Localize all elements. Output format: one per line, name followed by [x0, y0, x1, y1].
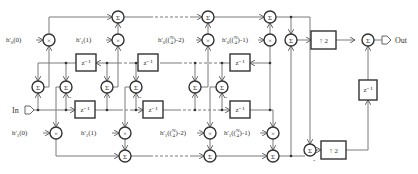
coef-h1-0: h'1(0)	[12, 130, 27, 138]
multiplier-node: ×	[264, 34, 276, 46]
svg-text:z⁻¹: z⁻¹	[81, 59, 90, 67]
svg-text:×: ×	[268, 37, 272, 45]
svg-text:Σ: Σ	[105, 84, 109, 92]
sum-node: Σ	[204, 150, 216, 162]
svg-text:×: ×	[123, 130, 127, 138]
sum-node: Σ	[285, 34, 297, 46]
svg-text:Σ: Σ	[289, 37, 293, 45]
svg-text:z⁻¹: z⁻¹	[235, 59, 244, 67]
svg-text:z⁻¹: z⁻¹	[148, 106, 157, 114]
svg-text:↑ 2: ↑ 2	[329, 147, 338, 155]
upsampler-bottom: ↑ 2	[321, 141, 346, 159]
coef-h0-1: h'1(1)	[76, 37, 91, 45]
delay-block: z⁻¹	[75, 101, 95, 118]
svg-text:Out: Out	[395, 36, 408, 45]
coef-h0-n4-minus-1: h'0((N4)-1)	[222, 35, 248, 45]
sum-node: Σ	[101, 81, 113, 93]
svg-text:-: -	[313, 156, 316, 164]
svg-text:-: -	[225, 93, 228, 101]
output-sum-node: Σ	[362, 34, 374, 46]
block-diagram: Σ Σ Σ Σ Σ Σ Σ Σ Σ Σ Σ Σ Σ Σ Σ × × × × × …	[0, 0, 418, 174]
multiplier-node: ×	[202, 34, 214, 46]
multiplier-node: ×	[119, 127, 131, 139]
svg-text:Σ: Σ	[220, 84, 224, 92]
delay-block: z⁻¹	[76, 54, 96, 71]
svg-text:Σ: Σ	[123, 153, 127, 161]
multiplier-node: ×	[43, 34, 55, 46]
delay-block: z⁻¹	[138, 54, 158, 71]
svg-text:Σ: Σ	[64, 84, 68, 92]
sum-node: Σ	[216, 81, 228, 93]
svg-text:z⁻¹: z⁻¹	[143, 59, 152, 67]
sum-node: Σ	[202, 11, 214, 23]
delay-block: z⁻¹	[230, 54, 250, 71]
svg-text:z⁻¹: z⁻¹	[80, 106, 89, 114]
svg-text:Σ: Σ	[206, 14, 210, 22]
sum-node: Σ	[189, 81, 201, 93]
svg-text:×: ×	[54, 130, 58, 138]
delay-block: z⁻¹	[143, 101, 163, 118]
svg-text:Σ: Σ	[36, 84, 40, 92]
svg-text:×: ×	[47, 37, 51, 45]
coef-h1-1: h'1(1)	[81, 130, 96, 138]
svg-text:×: ×	[116, 37, 120, 45]
sum-node: Σ	[112, 11, 124, 23]
svg-text:In: In	[12, 106, 19, 115]
multiplier-node: ×	[204, 127, 216, 139]
svg-text:×: ×	[208, 130, 212, 138]
coef-h1-n4-minus-2: h'1((N4)-2)	[160, 128, 186, 138]
svg-text:Σ: Σ	[366, 37, 370, 45]
svg-text:×: ×	[271, 130, 275, 138]
output-delay-block: z⁻¹	[359, 80, 377, 100]
multiplier-node: ×	[112, 34, 124, 46]
svg-text:Σ: Σ	[134, 84, 138, 92]
svg-text:Σ: Σ	[308, 147, 312, 155]
svg-text:z⁻¹: z⁻¹	[235, 106, 244, 114]
sum-node: Σ	[267, 150, 279, 162]
sum-node: Σ	[264, 11, 276, 23]
coef-h0-n4-minus-2: h'0((N4)-2)	[158, 35, 184, 45]
sum-node: Σ	[130, 81, 142, 93]
upsampler-top: ↑ 2	[311, 31, 336, 49]
svg-text:↑ 2: ↑ 2	[319, 37, 328, 45]
svg-text:Σ: Σ	[271, 153, 275, 161]
svg-text:-: -	[139, 93, 142, 101]
svg-text:z⁻¹: z⁻¹	[363, 86, 372, 94]
multiplier-node: ×	[267, 127, 279, 139]
delay-block: z⁻¹	[230, 101, 250, 118]
svg-text:-: -	[69, 93, 72, 101]
multiplier-nodes: × × × × × × × ×	[43, 34, 279, 139]
input-port: In	[12, 106, 34, 115]
svg-text:Σ: Σ	[268, 14, 272, 22]
sum-node: Σ	[304, 144, 316, 156]
coef-h0-0: h'0(0)	[6, 37, 21, 45]
sum-node: Σ	[60, 81, 72, 93]
coef-h1-n4-minus-1: h'1((N4)-1)	[224, 128, 250, 138]
svg-text:Σ: Σ	[193, 84, 197, 92]
svg-text:Σ: Σ	[116, 14, 120, 22]
svg-text:×: ×	[206, 37, 210, 45]
sum-node: Σ	[119, 150, 131, 162]
svg-text:Σ: Σ	[208, 153, 212, 161]
multiplier-node: ×	[50, 127, 62, 139]
sum-node: Σ	[32, 81, 44, 93]
output-port: Out	[382, 36, 408, 45]
